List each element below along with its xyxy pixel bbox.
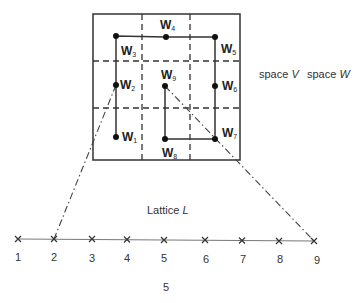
lattice-label-3: 3 [89, 252, 95, 264]
node-w4 [163, 34, 169, 40]
mapping-line-2-to-w2 [54, 85, 116, 239]
label-w8: W8 [162, 146, 177, 160]
lattice-label-8: 8 [277, 253, 283, 265]
label-space-w: space W [307, 68, 350, 80]
lattice-label-4: 4 [124, 252, 130, 264]
node-w1 [113, 134, 119, 140]
lattice-label-9: 9 [314, 254, 320, 266]
label-w1: W1 [122, 130, 137, 144]
lattice-label-1: 1 [15, 251, 21, 263]
lattice-label-7: 7 [240, 253, 246, 265]
lattice-mapping-diagram: W1 W2 W3 W4 W5 W6 W7 W8 W9 space V space… [0, 0, 361, 303]
node-w2 [113, 82, 119, 88]
label-w7: W7 [222, 126, 237, 140]
node-w3 [113, 33, 119, 39]
footer-label: 5 [163, 281, 169, 293]
lattice-label-5: 5 [161, 252, 167, 264]
node-w7 [212, 136, 218, 142]
label-w5: W5 [221, 42, 236, 56]
label-w2: W2 [120, 78, 135, 92]
lattice-label-2: 2 [51, 251, 57, 263]
label-space-v: space V [259, 68, 299, 80]
label-w6: W6 [222, 79, 237, 93]
lattice-label-6: 6 [203, 253, 209, 265]
node-w5 [212, 34, 218, 40]
label-w4: W4 [160, 18, 175, 32]
node-w9 [162, 83, 168, 89]
label-w9: W9 [161, 68, 176, 82]
node-w8 [162, 136, 168, 142]
label-lattice: Lattice L [147, 204, 189, 216]
lattice-line [18, 239, 314, 241]
node-w6 [212, 83, 218, 89]
label-w3: W3 [121, 44, 136, 58]
